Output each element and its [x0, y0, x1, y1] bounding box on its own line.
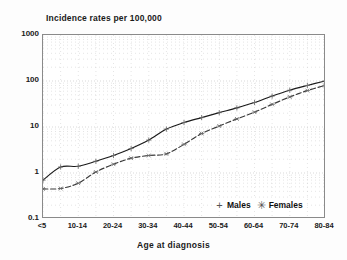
y-tick-label: 100	[26, 75, 39, 84]
legend-label-males: Males	[227, 200, 251, 210]
x-tick-label: 60-64	[244, 221, 263, 230]
legend-label-females: Females	[269, 200, 303, 210]
x-axis-title: Age at diagnosis	[0, 240, 347, 250]
x-tick-label: 30-34	[138, 221, 157, 230]
x-tick-label: 10-14	[68, 221, 87, 230]
x-tick-label: 70-74	[279, 221, 298, 230]
legend-item-males: + Males	[215, 200, 251, 210]
x-tick-label: 50-54	[209, 221, 228, 230]
chart-title: Incidence rates per 100,000	[46, 13, 162, 23]
plus-marker-icon: +	[215, 201, 224, 210]
plot-area	[42, 34, 325, 218]
legend-item-females: ✳ Females	[257, 200, 303, 210]
y-tick-label: 1000	[21, 29, 39, 38]
x-tick-label: 20-24	[103, 221, 122, 230]
chart-container: Incidence rates per 100,000 10001001010.…	[0, 0, 347, 260]
y-tick-label: 1	[35, 167, 39, 176]
x-tick-label: 80-84	[314, 221, 333, 230]
x-tick-label: <5	[38, 221, 47, 230]
x-tick-label: 40-44	[173, 221, 192, 230]
x-axis-labels: <510-1420-2430-3440-4450-5460-6470-7480-…	[0, 221, 347, 235]
y-tick-label: 10	[30, 121, 39, 130]
legend: + Males ✳ Females	[213, 199, 305, 211]
data-series	[43, 35, 325, 218]
asterisk-marker-icon: ✳	[257, 201, 266, 210]
